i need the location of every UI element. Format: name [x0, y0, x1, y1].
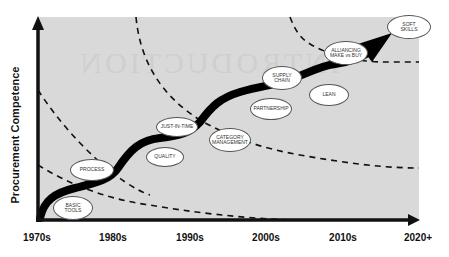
x-tick-1990s: 1990s [176, 232, 204, 243]
x-axis-arrowhead-icon [408, 214, 420, 226]
stage-just-in-time: JUST-IN-TIME [156, 117, 198, 137]
competence-curve [40, 50, 372, 218]
stage-soft-skills: SOFT SKILLS [387, 15, 431, 39]
stage-supply-chain: SUPPLY CHAIN [262, 66, 302, 90]
x-tick-2020-plus: 2020+ [404, 232, 432, 243]
stage-quality: QUALITY [146, 147, 184, 167]
stage-process: PROCESS [70, 159, 114, 181]
y-axis-label: Procurement Competence [9, 67, 21, 204]
x-tick-1970s: 1970s [23, 232, 51, 243]
stage-partnership: PARTNERSHIP [250, 98, 292, 120]
stage-basic-tools: BASIC TOOLS [53, 196, 93, 220]
x-tick-2010s: 2010s [329, 232, 357, 243]
x-tick-2000s: 2000s [252, 232, 280, 243]
stage-lean: LEAN [309, 84, 349, 106]
stage-alliancing-make-vs-buy: ALLIANCING MAKE vs BUY [324, 41, 368, 65]
y-axis-arrowhead-icon [32, 16, 44, 30]
stage-category-management: CATEGORY MANAGEMENT [209, 128, 251, 152]
procurement-evolution-diagram: INTRODUCTION Procurement Competence 1970… [0, 0, 449, 257]
x-tick-1980s: 1980s [99, 232, 127, 243]
